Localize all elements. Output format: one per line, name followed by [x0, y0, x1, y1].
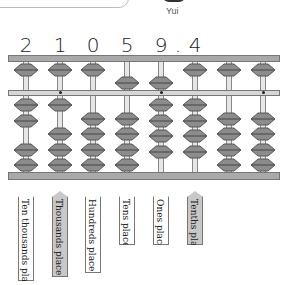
digit: 9 [155, 33, 168, 57]
abacus-bead[interactable] [13, 157, 39, 171]
abacus-bead[interactable] [182, 144, 208, 158]
abacus-bead[interactable] [114, 157, 140, 171]
unit-dot [59, 91, 62, 94]
place-label: Thousands place [52, 191, 68, 277]
number-display: 2 1 0 5 9 . 4 [0, 33, 286, 55]
place-label: Hundreds place [85, 191, 101, 273]
abacus-bead[interactable] [216, 157, 242, 171]
abacus-bead[interactable] [13, 142, 39, 156]
abacus-bead[interactable] [114, 126, 140, 140]
abacus-bead[interactable] [13, 97, 39, 111]
abacus-bead[interactable] [47, 126, 73, 140]
abacus-bead[interactable] [148, 113, 174, 127]
place-label-text: Hundreds place [87, 199, 97, 271]
place-label: Ones place [153, 191, 169, 245]
digit: 5 [121, 33, 134, 57]
abacus-bead[interactable] [182, 113, 208, 127]
digit: 1 [54, 33, 67, 57]
abacus-bead[interactable] [80, 126, 106, 140]
decimal-point: . [175, 33, 181, 57]
speech-bubble [0, 0, 129, 8]
place-label: Tenths place [187, 191, 203, 245]
place-label: Tens place [119, 191, 135, 245]
unit-dot [160, 91, 163, 94]
abacus-bead[interactable] [148, 97, 174, 111]
abacus-bead[interactable] [47, 142, 73, 156]
abacus-bead[interactable] [114, 142, 140, 156]
abacus-bead[interactable] [13, 113, 39, 127]
abacus-bead[interactable] [250, 142, 276, 156]
abacus-reckoning-bar [8, 90, 280, 96]
digit: 4 [189, 33, 202, 57]
abacus-bead[interactable] [182, 128, 208, 142]
abacus-bead[interactable] [47, 157, 73, 171]
digit: 0 [87, 33, 100, 57]
abacus-bead[interactable] [250, 126, 276, 140]
abacus-bead[interactable] [182, 62, 208, 76]
character-name: Yui [166, 6, 179, 16]
place-label-text: Thousands place [54, 199, 64, 275]
place-label-text: Tens place [121, 199, 131, 247]
digit: 2 [20, 33, 33, 57]
place-label-text: Ones place [155, 199, 165, 249]
abacus-bead[interactable] [250, 62, 276, 76]
unit-dot [262, 91, 265, 94]
abacus-bottom-frame [8, 172, 280, 180]
abacus-bead[interactable] [80, 62, 106, 76]
abacus-bead[interactable] [47, 62, 73, 76]
abacus-bead[interactable] [148, 75, 174, 89]
character-avatar-icon [163, 0, 185, 2]
abacus-bead[interactable] [80, 142, 106, 156]
abacus-bead[interactable] [216, 111, 242, 125]
abacus-bead[interactable] [80, 111, 106, 125]
abacus-bead[interactable] [148, 144, 174, 158]
abacus-bead[interactable] [148, 128, 174, 142]
place-label-text: Tenths place [189, 199, 199, 257]
abacus-bead[interactable] [216, 142, 242, 156]
abacus-bead[interactable] [13, 62, 39, 76]
abacus-bead[interactable] [216, 62, 242, 76]
abacus-bead[interactable] [216, 126, 242, 140]
place-label: Ten thousands place [18, 191, 34, 281]
abacus-bead[interactable] [182, 97, 208, 111]
abacus-top-frame [8, 55, 280, 62]
abacus-bead[interactable] [80, 157, 106, 171]
abacus-bead[interactable] [114, 75, 140, 89]
abacus-bead[interactable] [250, 111, 276, 125]
abacus-bead[interactable] [114, 111, 140, 125]
place-label-text: Ten thousands place [20, 199, 30, 285]
abacus-bead[interactable] [47, 97, 73, 111]
abacus-bead[interactable] [250, 157, 276, 171]
